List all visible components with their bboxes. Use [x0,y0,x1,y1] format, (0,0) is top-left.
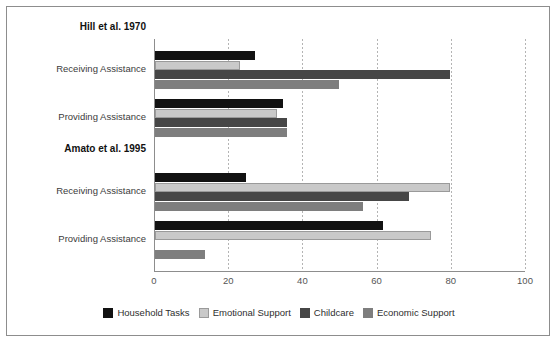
bar-g1-r1-emotional-support [155,231,431,240]
x-tick-label-20: 20 [223,275,234,286]
row-label-g0-r1: Providing Assistance [7,111,146,122]
legend-item-economic-support[interactable]: Economic Support [363,307,455,318]
bar-g1-r0-household-tasks [155,173,246,182]
legend-item-household-tasks[interactable]: Household Tasks [103,307,189,318]
household-tasks-swatch [103,308,113,318]
bar-g0-r1-economic-support [155,128,287,137]
gridline-80 [451,39,452,271]
childcare-swatch [300,308,310,318]
bar-g0-r1-childcare [155,118,287,127]
plot-area: 020406080100 [154,39,525,271]
x-tick-label-80: 80 [446,275,457,286]
bar-g0-r1-emotional-support [155,109,277,118]
bar-g1-r1-household-tasks [155,221,383,230]
bar-g0-r0-household-tasks [155,51,255,60]
bar-g0-r0-childcare [155,70,450,79]
row-label-g1-r0: Receiving Assistance [7,185,146,196]
legend-label-3: Economic Support [377,307,455,318]
legend-label-1: Emotional Support [213,307,291,318]
bar-g1-r0-economic-support [155,202,363,211]
bar-g0-r1-household-tasks [155,99,283,108]
x-tick-label-0: 0 [151,275,156,286]
bar-g1-r1-economic-support [155,250,205,259]
x-tick-label-100: 100 [517,275,533,286]
group-title-0: Hill et al. 1970 [7,21,146,32]
emotional-support-swatch [199,308,209,318]
chart-legend: Household TasksEmotional SupportChildcar… [7,307,551,318]
legend-label-2: Childcare [314,307,354,318]
group-title-1: Amato et al. 1995 [7,143,146,154]
legend-label-0: Household Tasks [117,307,189,318]
x-axis-line [154,271,525,272]
legend-item-emotional-support[interactable]: Emotional Support [199,307,291,318]
x-tick-label-60: 60 [371,275,382,286]
bar-g0-r0-emotional-support [155,61,240,70]
bar-g1-r0-childcare [155,192,409,201]
chart-frame: 020406080100 Hill et al. 1970Receiving A… [6,6,550,336]
bar-g0-r0-economic-support [155,80,339,89]
x-tick-label-40: 40 [297,275,308,286]
economic-support-swatch [363,308,373,318]
gridline-100 [525,39,526,271]
row-label-g0-r0: Receiving Assistance [7,63,146,74]
legend-item-childcare[interactable]: Childcare [300,307,354,318]
bar-g1-r0-emotional-support [155,183,450,192]
row-label-g1-r1: Providing Assistance [7,233,146,244]
